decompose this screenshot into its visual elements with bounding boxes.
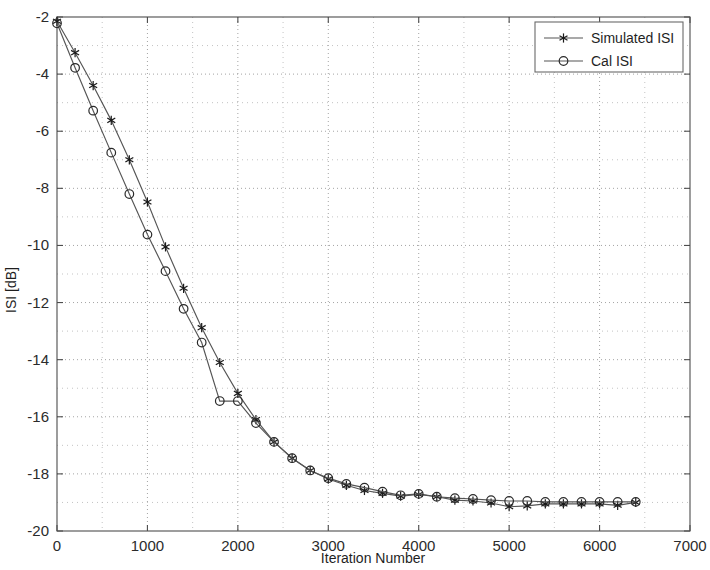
- series-1: [53, 17, 640, 512]
- star-marker: [89, 81, 97, 90]
- minor-gridlines: [57, 17, 690, 531]
- star-marker: [216, 358, 224, 367]
- legend-label-1: Simulated ISI: [591, 30, 674, 46]
- chart-canvas: 01000200030004000500060007000 -20-18-16-…: [0, 0, 710, 570]
- star-marker: [198, 323, 206, 332]
- y-tick-label: -2: [36, 8, 49, 25]
- isi-convergence-figure: 01000200030004000500060007000 -20-18-16-…: [0, 0, 710, 570]
- star-marker: [162, 242, 170, 251]
- legend-label-2: Cal ISI: [591, 53, 633, 69]
- y-axis-tick-labels: -20-18-16-14-12-10-8-6-4-2: [27, 8, 49, 539]
- x-tick-label: 6000: [583, 537, 616, 554]
- y-tick-label: -20: [27, 522, 49, 539]
- data-series-layer: [53, 17, 640, 512]
- y-tick-label: -6: [36, 122, 49, 139]
- x-tick-label: 2000: [221, 537, 254, 554]
- y-tick-label: -4: [36, 65, 49, 82]
- y-tick-label: -12: [27, 294, 49, 311]
- chart-legend: Simulated ISICal ISI: [535, 22, 683, 72]
- plot-frame: [57, 17, 690, 531]
- x-tick-label: 0: [53, 537, 61, 554]
- series-2: [53, 19, 640, 506]
- star-marker: [71, 48, 79, 57]
- y-tick-label: -14: [27, 351, 49, 368]
- x-tick-label: 5000: [492, 537, 525, 554]
- x-axis-title: Iteration Number: [321, 550, 426, 566]
- y-tick-label: -16: [27, 408, 49, 425]
- y-tick-label: -10: [27, 236, 49, 253]
- y-tick-label: -18: [27, 465, 49, 482]
- star-marker: [180, 284, 188, 293]
- x-tick-label: 7000: [673, 537, 706, 554]
- major-gridlines: [57, 17, 690, 531]
- star-marker: [107, 116, 115, 125]
- y-tick-label: -8: [36, 179, 49, 196]
- series-path: [57, 23, 636, 502]
- x-tick-label: 1000: [131, 537, 164, 554]
- y-axis-title: ISI [dB]: [3, 267, 19, 313]
- tick-marks: [57, 17, 690, 531]
- star-marker: [143, 197, 151, 206]
- series-path: [57, 21, 636, 506]
